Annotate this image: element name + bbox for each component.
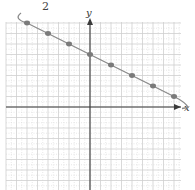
plotted-curve <box>18 13 188 109</box>
coordinate-plane: x y 2 <box>0 0 195 190</box>
y-axis-arrow-icon <box>87 18 93 25</box>
data-point-marker <box>45 31 51 36</box>
figure-top-label: 2 <box>42 0 49 13</box>
data-point-marker <box>24 21 30 26</box>
grid <box>6 22 181 190</box>
data-point-marker <box>87 52 93 57</box>
data-point-marker <box>129 73 135 78</box>
data-point-marker <box>108 63 114 68</box>
y-axis-label: y <box>85 7 92 18</box>
x-axis-arrow-icon <box>174 104 181 110</box>
data-point-marker <box>66 42 72 47</box>
data-point-marker <box>150 84 156 89</box>
data-point-marker <box>171 94 177 99</box>
